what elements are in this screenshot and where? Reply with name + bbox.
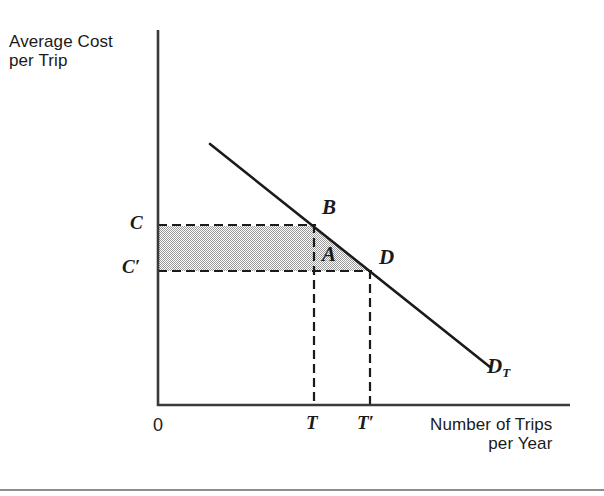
region-label-A: A xyxy=(322,243,336,267)
curve-label-DT-base: D xyxy=(487,354,502,378)
curve-label-DT: DT xyxy=(487,355,510,379)
x-axis-title-line2: per Year xyxy=(430,434,552,453)
point-label-B: B xyxy=(322,196,336,220)
origin-label: 0 xyxy=(153,415,163,435)
x-axis-title: Number of Tripsper Year xyxy=(430,415,552,453)
x-axis-title-line1: Number of Trips xyxy=(430,415,552,434)
figure-container: Average Costper Trip Number of Tripsper … xyxy=(0,0,604,496)
point-label-D: D xyxy=(379,246,394,270)
y-tick-label-C-prime: C′ xyxy=(122,256,140,277)
y-axis-title-line2: per Trip xyxy=(9,51,67,70)
y-tick-label-C: C xyxy=(130,212,143,233)
x-tick-label-T: T xyxy=(306,412,318,433)
y-axis-title: Average Costper Trip xyxy=(9,32,113,70)
y-axis-title-line1: Average Cost xyxy=(9,32,113,51)
x-tick-label-T-prime: T′ xyxy=(357,412,374,433)
shaded-region-consumer-surplus xyxy=(159,226,370,271)
curve-label-DT-subscript: T xyxy=(502,365,510,380)
